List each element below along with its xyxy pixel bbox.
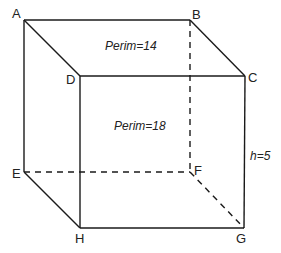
vertex-label-f: F — [194, 163, 202, 178]
vertex-label-c: C — [248, 70, 257, 85]
edge-bc — [190, 20, 245, 76]
vertex-label-h: H — [75, 231, 84, 246]
height-label: h=5 — [250, 149, 271, 163]
prism-diagram: A B C D E F G H Perim=14 Perim=18 h=5 — [0, 0, 281, 253]
vertex-label-a: A — [12, 6, 21, 21]
edge-ad — [24, 20, 80, 76]
edge-eh — [24, 172, 80, 228]
vertex-label-d: D — [66, 72, 75, 87]
front-perimeter-label: Perim=18 — [114, 119, 166, 133]
edge-cg — [244, 76, 245, 228]
top-perimeter-label: Perim=14 — [105, 39, 157, 53]
vertex-label-e: E — [12, 166, 21, 181]
vertex-label-b: B — [192, 7, 201, 22]
vertex-label-g: G — [236, 231, 246, 246]
edge-fg-hidden — [190, 172, 244, 228]
